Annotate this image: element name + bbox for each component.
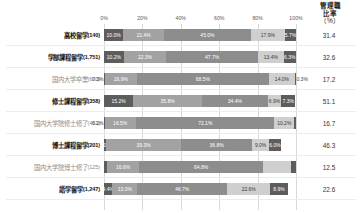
- rate-value: 22.6: [300, 178, 358, 200]
- rate-value: 46.3: [300, 134, 358, 156]
- row-category-name: 学部課程留学: [48, 53, 83, 62]
- chart-row: 学部課程留学(1,751)10.2%22.3%47.7%13.4%6.3%32.…: [0, 46, 362, 68]
- bar-segment: 16.5%: [104, 117, 136, 129]
- bar-segment: 21.4%: [123, 29, 164, 41]
- bar-segment: 6.0%: [269, 139, 281, 151]
- bar-segment: 47.7%: [166, 51, 258, 63]
- stacked-bar-chart: 管理職 比率 （%） 0%20%40%60%80%100% 高校留学(140)1…: [0, 0, 362, 213]
- bar-segment: [291, 161, 296, 173]
- bar-segment: 22.6%: [227, 183, 270, 195]
- row-category-name: 高校留学: [64, 31, 88, 40]
- bar-segment: [263, 161, 291, 173]
- x-tick-label: 40%: [176, 15, 186, 21]
- x-tick-label: 60%: [214, 15, 224, 21]
- bar-segment: 64.8%: [139, 161, 263, 173]
- bar-segment: [294, 117, 296, 129]
- bar-segment: 34.4%: [202, 95, 268, 107]
- row-category-label: 国内大学卒業(670): [4, 68, 100, 90]
- rate-value: 16.7: [300, 112, 358, 134]
- stacked-bar: 16.6%64.8%: [104, 161, 296, 173]
- bar-segment: 36.8%: [181, 139, 252, 151]
- bar-segment: 68.5%: [137, 73, 269, 85]
- bar-segment: 17.9%: [251, 29, 285, 41]
- chart-row: 国内大学卒業(670)0.3%16.9%68.5%14.0%0.3%17.2: [0, 68, 362, 90]
- row-sample-size: (1,247): [83, 186, 100, 192]
- bar-segment: 4.4%: [104, 183, 112, 195]
- stacked-bar: 0.3%16.9%68.5%14.0%0.3%: [104, 73, 296, 85]
- chart-row: 修士課程留学(358)15.2%35.8%34.4%6.9%7.3%51.1: [0, 90, 362, 112]
- row-category-label: 博士課程留学(201): [4, 134, 100, 156]
- chart-row: 博士課程留学(201)1.0%39.3%36.8%9.0%6.0%46.3: [0, 134, 362, 156]
- row-sample-size: (125): [87, 164, 100, 170]
- bar-segment-label: 0.2%: [92, 117, 104, 129]
- stacked-bar: 15.2%35.8%34.4%6.9%7.3%: [104, 95, 296, 107]
- bar-segment: 10.2%: [274, 117, 294, 129]
- bar-segment: 45.0%: [164, 29, 250, 41]
- bar-segment: 15.2%: [104, 95, 133, 107]
- rate-column-header-line1: 管理職: [300, 2, 360, 10]
- row-category-label: 語学留学(1,247): [4, 178, 100, 200]
- stacked-bar: 1.0%39.3%36.8%9.0%6.0%: [104, 139, 296, 151]
- row-sample-size: (1,751): [83, 54, 100, 60]
- stacked-bar: 10.2%22.3%47.7%13.4%6.3%: [104, 51, 296, 63]
- row-category-name: 語学留学: [59, 185, 83, 194]
- row-category-label: 国内大学院博士修了(125): [4, 156, 100, 178]
- row-category-label: 国内大学院修士修了(461): [4, 112, 100, 134]
- row-category-label: 学部課程留学(1,751): [4, 46, 100, 68]
- bar-segment: 46.7%: [137, 183, 227, 195]
- bar-segment: 14.0%: [269, 73, 296, 85]
- bar-segment: 16.9%: [105, 73, 137, 85]
- bar-segment: 39.3%: [106, 139, 181, 151]
- row-category-name: 国内大学院修士修了: [34, 119, 87, 128]
- rate-value: 12.5: [300, 156, 358, 178]
- x-tick-label: 80%: [252, 15, 262, 21]
- rate-value: 32.6: [300, 46, 358, 68]
- bar-segment: 10.0%: [104, 29, 123, 41]
- stacked-bar: 10.0%21.4%45.0%17.9%5.7%: [104, 29, 296, 41]
- x-tick-label: 0%: [100, 15, 108, 21]
- chart-row: 国内大学院修士修了(461)0.2%16.5%72.1%10.2%16.7: [0, 112, 362, 134]
- bar-segment: 16.6%: [107, 161, 139, 173]
- row-category-name: 国内大学院博士修了: [34, 163, 87, 172]
- row-category-label: 修士課程留学(358): [4, 90, 100, 112]
- bar-segment: 72.1%: [136, 117, 274, 129]
- row-sample-size: (140): [87, 32, 100, 38]
- row-category-name: 博士課程留学: [52, 141, 87, 150]
- chart-rows: 高校留学(140)10.0%21.4%45.0%17.9%5.7%31.4学部課…: [0, 24, 362, 200]
- chart-row: 国内大学院博士修了(125)16.6%64.8%12.5: [0, 156, 362, 178]
- bar-segment: 35.8%: [133, 95, 202, 107]
- rate-value: 51.1: [300, 90, 358, 112]
- stacked-bar: 4.4%13.0%46.7%22.6%8.9%: [104, 183, 296, 195]
- row-category-label: 高校留学(140): [4, 24, 100, 46]
- bar-segment: 0.3%: [295, 73, 296, 85]
- rate-value: 31.4: [300, 24, 358, 46]
- bar-segment: 6.3%: [284, 51, 296, 63]
- row-category-name: 修士課程留学: [52, 97, 87, 106]
- rate-value: 17.2: [300, 68, 358, 90]
- bar-segment-label: 0.3%: [92, 73, 104, 85]
- row-category-name: 国内大学卒業: [52, 75, 87, 84]
- rate-column-header-line2: 比率: [300, 10, 360, 18]
- bar-segment: 6.9%: [268, 95, 281, 107]
- x-tick-label: 20%: [137, 15, 147, 21]
- stacked-bar: 0.2%16.5%72.1%10.2%: [104, 117, 296, 129]
- bar-segment: 7.3%: [281, 95, 295, 107]
- row-sample-size: (201): [87, 142, 100, 148]
- bar-segment: 22.3%: [124, 51, 167, 63]
- row-divider: [6, 199, 356, 200]
- bar-segment: 5.7%: [285, 29, 296, 41]
- bar-segment: 9.0%: [252, 139, 269, 151]
- chart-row: 高校留学(140)10.0%21.4%45.0%17.9%5.7%31.4: [0, 24, 362, 46]
- x-tick-label: 100%: [289, 15, 302, 21]
- bar-segment: 0.3%: [104, 73, 105, 85]
- row-sample-size: (358): [87, 98, 100, 104]
- bar-segment: 13.4%: [258, 51, 284, 63]
- bar-segment: 8.9%: [270, 183, 287, 195]
- bar-segment: 13.0%: [112, 183, 137, 195]
- bar-segment: 10.2%: [104, 51, 124, 63]
- chart-row: 語学留学(1,247)4.4%13.0%46.7%22.6%8.9%22.6: [0, 178, 362, 200]
- rate-column-header: 管理職 比率 （%）: [300, 2, 360, 25]
